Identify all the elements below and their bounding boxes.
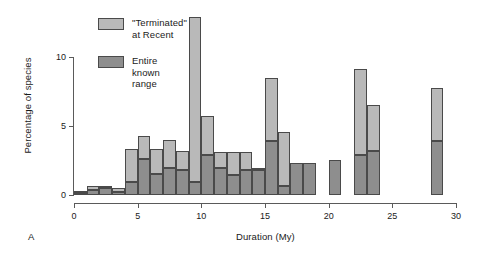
bar-segment-entire-known-range bbox=[303, 163, 316, 195]
bar-segment-entire-known-range bbox=[125, 182, 138, 195]
histogram-bar bbox=[201, 116, 214, 195]
bar-segment-entire-known-range bbox=[329, 160, 342, 195]
histogram-figure: 10 5 0 Percentage of species 05101520253… bbox=[0, 0, 486, 256]
x-tick-10 bbox=[201, 203, 202, 208]
bar-segment-terminated-at-recent bbox=[227, 152, 240, 175]
bar-segment-entire-known-range bbox=[367, 151, 380, 195]
y-tick-label-5: 5 bbox=[44, 122, 66, 131]
y-tick-label-10: 10 bbox=[44, 53, 66, 62]
bar-segment-entire-known-range bbox=[138, 159, 151, 195]
histogram-bar bbox=[303, 163, 316, 195]
bar-segment-terminated-at-recent bbox=[265, 78, 278, 141]
x-tick-25 bbox=[392, 203, 393, 208]
bar-segment-entire-known-range bbox=[74, 193, 87, 195]
bar-segment-terminated-at-recent bbox=[74, 191, 87, 193]
x-tick-label-15: 15 bbox=[250, 211, 280, 221]
bar-segment-entire-known-range bbox=[214, 168, 227, 195]
histogram-bar bbox=[329, 160, 342, 195]
x-tick-label-0: 0 bbox=[59, 211, 89, 221]
histogram-bar bbox=[189, 17, 202, 195]
bar-segment-entire-known-range bbox=[252, 170, 265, 195]
bar-segment-entire-known-range bbox=[189, 182, 202, 195]
bar-segment-entire-known-range bbox=[354, 155, 367, 195]
histogram-bar bbox=[290, 163, 303, 195]
bar-segment-terminated-at-recent bbox=[150, 149, 163, 173]
legend-label-terminated: "Terminated" at Recent bbox=[132, 17, 187, 40]
x-tick-15 bbox=[265, 203, 266, 208]
bar-segment-entire-known-range bbox=[150, 174, 163, 195]
x-tick-30 bbox=[456, 203, 457, 208]
bar-segment-entire-known-range bbox=[265, 141, 278, 195]
histogram-bar bbox=[252, 168, 265, 195]
bar-segment-entire-known-range bbox=[99, 188, 112, 195]
histogram-bar bbox=[150, 149, 163, 195]
histogram-bar bbox=[138, 136, 151, 195]
x-tick-label-30: 30 bbox=[441, 211, 471, 221]
histogram-bar bbox=[176, 151, 189, 195]
bar-segment-terminated-at-recent bbox=[431, 88, 444, 142]
histogram-bar bbox=[227, 152, 240, 195]
histogram-bar bbox=[354, 69, 367, 195]
bar-segment-terminated-at-recent bbox=[189, 17, 202, 182]
histogram-bar bbox=[214, 152, 227, 195]
bar-segment-terminated-at-recent bbox=[354, 69, 367, 155]
legend-entry-entire-range: Entire known range bbox=[98, 55, 160, 90]
x-tick-label-5: 5 bbox=[123, 211, 153, 221]
histogram-bar bbox=[163, 140, 176, 195]
bar-segment-entire-known-range bbox=[201, 155, 214, 195]
bar-segment-entire-known-range bbox=[176, 170, 189, 195]
x-axis-label: Duration (My) bbox=[236, 231, 295, 242]
bar-segment-entire-known-range bbox=[290, 163, 303, 195]
y-axis-label: Percentage of species bbox=[22, 46, 33, 166]
histogram-bar bbox=[125, 149, 138, 195]
terminated-at-recent-swatch bbox=[98, 18, 124, 30]
bar-segment-terminated-at-recent bbox=[125, 149, 138, 181]
bar-segment-terminated-at-recent bbox=[252, 168, 265, 170]
bar-segment-terminated-at-recent bbox=[201, 116, 214, 155]
bar-segment-entire-known-range bbox=[278, 186, 291, 195]
x-tick-label-10: 10 bbox=[186, 211, 216, 221]
histogram-bar bbox=[367, 105, 380, 195]
bar-segment-terminated-at-recent bbox=[214, 152, 227, 168]
legend-label-entire-range: Entire known range bbox=[132, 55, 160, 90]
histogram-bar bbox=[265, 78, 278, 195]
bar-segment-entire-known-range bbox=[87, 190, 100, 195]
histogram-bar bbox=[240, 152, 253, 195]
histogram-bar bbox=[431, 88, 444, 195]
bar-segment-entire-known-range bbox=[163, 168, 176, 195]
bar-segment-terminated-at-recent bbox=[99, 186, 112, 188]
bar-segment-terminated-at-recent bbox=[278, 132, 291, 186]
x-tick-20 bbox=[329, 203, 330, 208]
histogram-bar bbox=[112, 188, 125, 195]
entire-known-range-swatch bbox=[98, 56, 124, 68]
x-tick-label-20: 20 bbox=[314, 211, 344, 221]
histogram-bar bbox=[74, 192, 87, 195]
bar-segment-terminated-at-recent bbox=[367, 105, 380, 151]
bar-segment-terminated-at-recent bbox=[240, 152, 253, 169]
y-tick-label-0: 0 bbox=[44, 191, 66, 200]
x-tick-label-25: 25 bbox=[377, 211, 407, 221]
bar-segment-entire-known-range bbox=[112, 192, 125, 195]
histogram-bar bbox=[99, 186, 112, 195]
bar-segment-terminated-at-recent bbox=[112, 188, 125, 191]
bar-segment-terminated-at-recent bbox=[163, 140, 176, 168]
bar-segment-terminated-at-recent bbox=[176, 151, 189, 170]
bar-segment-entire-known-range bbox=[240, 170, 253, 195]
histogram-bar bbox=[278, 132, 291, 195]
panel-letter: A bbox=[28, 231, 34, 242]
bar-segment-terminated-at-recent bbox=[138, 136, 151, 159]
bar-segment-entire-known-range bbox=[431, 141, 444, 195]
y-tick-0 bbox=[69, 195, 74, 196]
legend-entry-terminated: "Terminated" at Recent bbox=[98, 17, 187, 40]
bar-segment-terminated-at-recent bbox=[87, 186, 100, 190]
x-tick-0 bbox=[74, 203, 75, 208]
plot-area bbox=[74, 14, 456, 195]
bar-segment-entire-known-range bbox=[227, 175, 240, 195]
histogram-bar bbox=[87, 186, 100, 195]
x-tick-5 bbox=[138, 203, 139, 208]
